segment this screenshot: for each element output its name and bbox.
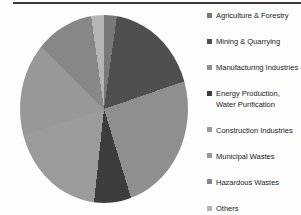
- legend-item: Agriculture & Forestry: [207, 11, 300, 21]
- legend-item: Mining & Quarrying: [207, 37, 300, 47]
- legend-label: Construction Industries: [216, 126, 293, 136]
- top-rule-line: [13, 2, 301, 4]
- pie-chart: [20, 15, 188, 203]
- chart-legend: Agriculture & ForestryMining & Quarrying…: [207, 11, 300, 214]
- legend-item: Construction Industries: [207, 126, 300, 136]
- legend-item: Hazardous Wastes: [207, 178, 300, 188]
- legend-label: Mining & Quarrying: [216, 37, 280, 47]
- legend-color-swatch: [207, 206, 212, 211]
- legend-label: Energy Production, Water Purification: [216, 89, 300, 109]
- legend-color-swatch: [207, 179, 212, 184]
- legend-label: Municipal Wastes: [216, 152, 275, 162]
- legend-color-swatch: [207, 127, 212, 132]
- legend-color-swatch: [207, 91, 212, 96]
- legend-label: Manufacturing Industries: [216, 63, 298, 73]
- legend-label: Agriculture & Forestry: [216, 11, 289, 21]
- legend-label: Others: [216, 204, 239, 214]
- legend-color-swatch: [207, 65, 212, 70]
- legend-item: Manufacturing Industries: [207, 63, 300, 73]
- legend-color-swatch: [207, 13, 212, 18]
- legend-item: Others: [207, 204, 300, 214]
- legend-label: Hazardous Wastes: [216, 178, 279, 188]
- legend-color-swatch: [207, 153, 212, 158]
- legend-item: Energy Production, Water Purification: [207, 89, 300, 109]
- legend-item: Municipal Wastes: [207, 152, 300, 162]
- legend-color-swatch: [207, 39, 212, 44]
